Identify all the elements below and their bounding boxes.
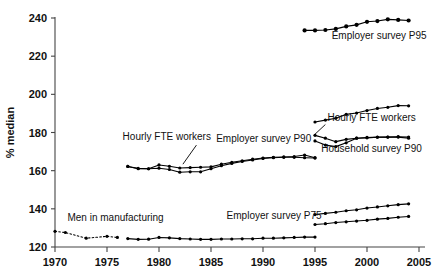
- data-point: [64, 231, 67, 234]
- series-9: [126, 235, 316, 240]
- data-point: [189, 166, 192, 169]
- data-point: [407, 18, 411, 22]
- data-point: [126, 237, 129, 240]
- data-point: [313, 28, 317, 32]
- data-point: [168, 236, 171, 239]
- data-point: [178, 166, 181, 169]
- y-tick-label: 200: [29, 88, 47, 100]
- leader-hourly-fte-early: [183, 145, 197, 164]
- series-4: [126, 153, 316, 170]
- data-point: [168, 168, 171, 171]
- data-point: [386, 106, 389, 109]
- annotation-label: Employer survey P90: [216, 133, 311, 144]
- x-tick-label: 1980: [147, 256, 171, 268]
- data-point: [386, 135, 389, 138]
- data-point: [293, 156, 296, 159]
- x-tick-label: 2005: [407, 256, 431, 268]
- y-tick-label: 160: [29, 165, 47, 177]
- data-point: [313, 156, 316, 159]
- data-point: [272, 237, 275, 240]
- data-point: [178, 171, 181, 174]
- data-point: [220, 164, 223, 167]
- data-point: [313, 223, 316, 226]
- data-point: [293, 236, 296, 239]
- data-point: [334, 211, 337, 214]
- data-point: [324, 137, 327, 140]
- data-point: [355, 23, 359, 27]
- series-7: [313, 215, 410, 226]
- annotation-label: Household survey P90: [321, 143, 422, 154]
- data-point: [199, 166, 202, 169]
- series-line: [315, 216, 409, 224]
- annotation-label: Employer survey P95: [332, 30, 427, 41]
- data-point: [230, 237, 233, 240]
- data-point: [147, 238, 150, 241]
- series-annotations: Employer survey P95Hourly FTE workersHou…: [67, 30, 427, 223]
- data-point: [386, 217, 389, 220]
- data-point: [313, 120, 316, 123]
- data-point: [178, 237, 181, 240]
- data-point: [345, 220, 348, 223]
- data-point: [189, 237, 192, 240]
- data-point: [241, 237, 244, 240]
- x-tick-label: 2000: [355, 256, 379, 268]
- data-point: [407, 202, 410, 205]
- data-point: [355, 137, 358, 140]
- data-point: [137, 167, 140, 170]
- y-tick-labels: 120140160180200220240: [29, 12, 47, 253]
- data-point: [345, 138, 348, 141]
- data-point: [53, 230, 56, 233]
- data-point: [365, 219, 368, 222]
- data-point: [386, 204, 389, 207]
- x-tick-label: 1995: [303, 256, 327, 268]
- data-point: [189, 170, 192, 173]
- data-point: [323, 28, 327, 32]
- chart-canvas: 120140160180200220240 197019751980198519…: [0, 0, 439, 272]
- data-point: [397, 104, 400, 107]
- data-point: [407, 137, 410, 140]
- data-point: [407, 104, 410, 107]
- data-point: [303, 156, 306, 159]
- data-point: [344, 24, 348, 28]
- data-point: [365, 206, 368, 209]
- data-point: [230, 162, 233, 165]
- y-tick-label: 220: [29, 50, 47, 62]
- data-point: [376, 107, 379, 110]
- data-point: [365, 20, 369, 24]
- data-point: [365, 136, 368, 139]
- data-point: [396, 18, 400, 22]
- data-point: [355, 219, 358, 222]
- series-layer: [53, 17, 410, 241]
- data-point: [345, 209, 348, 212]
- x-tick-label: 1975: [95, 256, 119, 268]
- data-point: [199, 238, 202, 241]
- data-point: [397, 216, 400, 219]
- data-point: [209, 238, 212, 241]
- y-axis-title-label: % median: [4, 107, 16, 159]
- data-point: [126, 165, 129, 168]
- x-tick-label: 1990: [251, 256, 275, 268]
- y-tick-label: 140: [29, 203, 47, 215]
- data-point: [334, 221, 337, 224]
- data-point: [261, 237, 264, 240]
- data-point: [157, 236, 160, 239]
- data-point: [261, 157, 264, 160]
- data-point: [282, 156, 285, 159]
- data-point: [220, 237, 223, 240]
- data-point: [376, 218, 379, 221]
- data-point: [209, 167, 212, 170]
- data-point: [397, 135, 400, 138]
- data-point: [313, 235, 316, 238]
- annotation-label: Hourly FTE workers: [123, 131, 211, 142]
- data-point: [376, 205, 379, 208]
- data-point: [137, 238, 140, 241]
- data-point: [251, 237, 254, 240]
- data-point: [303, 235, 306, 238]
- y-tick-label: 180: [29, 127, 47, 139]
- x-tick-label: 1985: [199, 256, 223, 268]
- y-tick-label: 120: [29, 241, 47, 253]
- annotation-label: Hourly FTE workers: [327, 112, 415, 123]
- leader-hourly-fte-late: [314, 124, 325, 135]
- data-point: [168, 165, 171, 168]
- chart-figure: 120140160180200220240 197019751980198519…: [0, 0, 439, 272]
